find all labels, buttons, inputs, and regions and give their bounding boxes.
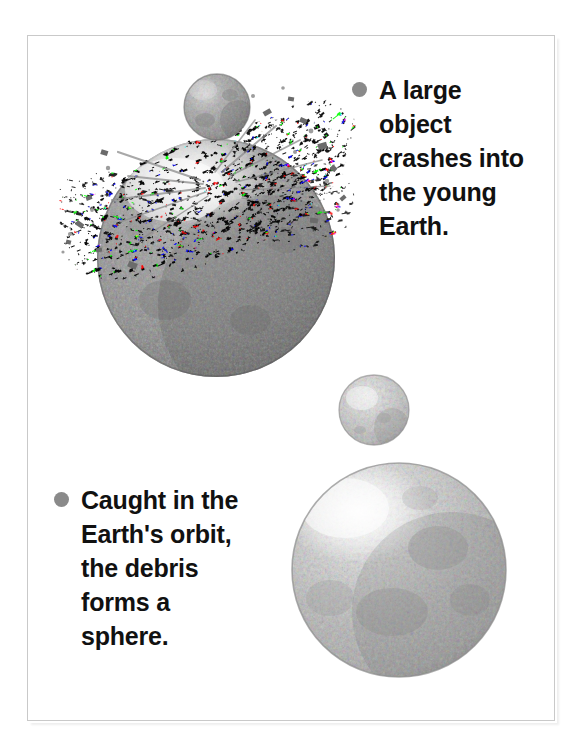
- filled-circle-bullet-icon: [352, 82, 367, 97]
- caption-impact-text: A large object crashes into the young Ea…: [379, 73, 524, 243]
- caption-impact: A large object crashes into the young Ea…: [352, 73, 552, 243]
- caption-moon-forms-text: Caught in the Earth's orbit, the debris …: [81, 483, 238, 653]
- diagram-page: A large object crashes into the young Ea…: [0, 0, 577, 746]
- filled-circle-bullet-icon: [54, 492, 69, 507]
- caption-moon-forms: Caught in the Earth's orbit, the debris …: [54, 483, 264, 653]
